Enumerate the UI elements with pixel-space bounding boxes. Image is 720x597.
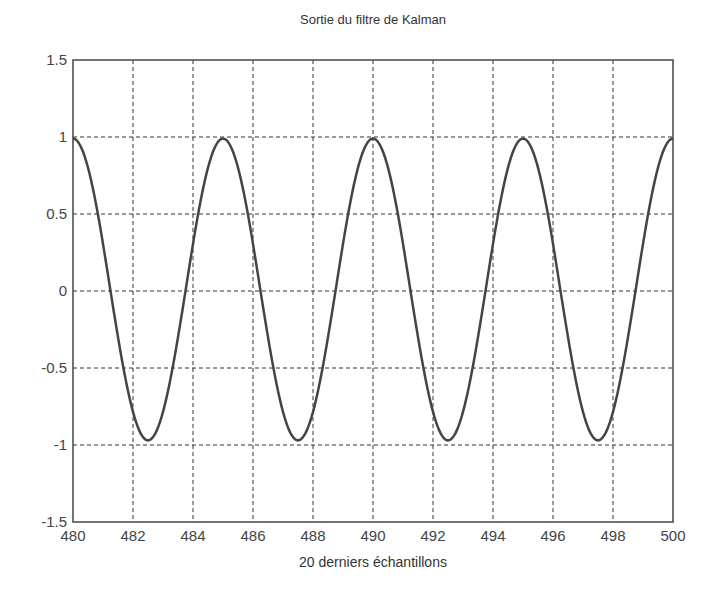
line-chart: Sortie du filtre de Kalman 4804824844864… bbox=[0, 0, 720, 597]
x-axis-label: 20 derniers échantillons bbox=[299, 554, 447, 570]
chart-title: Sortie du filtre de Kalman bbox=[300, 12, 446, 27]
y-tick-label: -1 bbox=[54, 436, 67, 453]
grid-lines bbox=[73, 60, 673, 522]
x-tick-label: 492 bbox=[420, 527, 445, 544]
x-tick-label: 486 bbox=[240, 527, 265, 544]
y-tick-label: 1 bbox=[59, 128, 67, 145]
x-tick-label: 494 bbox=[480, 527, 505, 544]
x-tick-label: 482 bbox=[120, 527, 145, 544]
kalman-output-line bbox=[73, 139, 673, 441]
x-axis-ticks: 480482484486488490492494496498500 bbox=[60, 527, 685, 544]
x-tick-label: 488 bbox=[300, 527, 325, 544]
y-axis-ticks: 1.510.50-0.5-1-1.5 bbox=[41, 51, 67, 530]
x-tick-label: 496 bbox=[540, 527, 565, 544]
x-tick-label: 484 bbox=[180, 527, 205, 544]
x-tick-label: 490 bbox=[360, 527, 385, 544]
y-tick-label: -1.5 bbox=[41, 513, 67, 530]
y-tick-label: 0.5 bbox=[46, 205, 67, 222]
y-tick-label: -0.5 bbox=[41, 359, 67, 376]
x-tick-label: 498 bbox=[600, 527, 625, 544]
y-tick-label: 1.5 bbox=[46, 51, 67, 68]
x-tick-label: 500 bbox=[660, 527, 685, 544]
y-tick-label: 0 bbox=[59, 282, 67, 299]
